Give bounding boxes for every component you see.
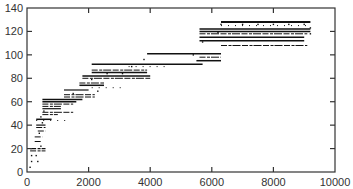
data-point (242, 24, 243, 25)
y-tick-label: 60 (11, 96, 23, 108)
x-tick-label: 8000 (261, 176, 285, 188)
data-point (73, 93, 74, 94)
x-tick-label: 2000 (76, 176, 100, 188)
data-point (40, 146, 41, 147)
data-point (288, 24, 289, 25)
data-point (91, 79, 92, 80)
y-tick-label: 40 (11, 119, 23, 131)
data-point (122, 73, 123, 74)
data-point (42, 122, 43, 123)
y-tick-label: 0 (17, 166, 23, 178)
data-point (40, 116, 41, 117)
data-point (37, 161, 38, 162)
data-point (217, 32, 218, 33)
x-tick-label: 4000 (138, 176, 162, 188)
x-axis: 0200040006000800010000 (24, 8, 350, 188)
data-point (202, 41, 203, 42)
data-point (106, 73, 107, 74)
y-tick-label: 120 (5, 25, 23, 37)
data-point (193, 54, 194, 55)
scatter-chart: 0200040006000800010000 02040608010012014… (0, 0, 353, 189)
data-points (29, 22, 311, 168)
y-tick-label: 20 (11, 143, 23, 155)
data-point (97, 91, 98, 92)
y-tick-label: 100 (5, 49, 23, 61)
data-point (31, 155, 32, 156)
data-point (29, 167, 30, 168)
data-point (273, 24, 274, 25)
data-point (220, 24, 221, 25)
y-tick-label: 140 (5, 2, 23, 14)
data-point (143, 59, 144, 60)
data-point (257, 24, 258, 25)
x-tick-label: 10000 (320, 176, 351, 188)
data-point (131, 66, 132, 67)
data-point (36, 155, 37, 156)
data-point (43, 110, 44, 111)
data-point (304, 24, 305, 25)
y-tick-label: 80 (11, 72, 23, 84)
data-point (310, 33, 311, 34)
x-tick-label: 0 (24, 176, 30, 188)
x-tick-label: 6000 (200, 176, 224, 188)
data-point (310, 27, 311, 28)
data-point (39, 133, 40, 134)
data-point (31, 161, 32, 162)
